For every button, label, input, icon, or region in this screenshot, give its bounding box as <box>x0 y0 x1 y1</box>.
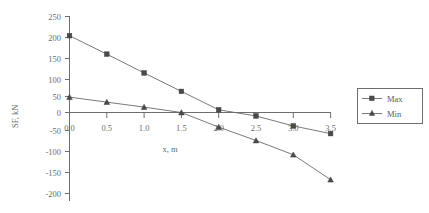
y-tick-label-250: 250 <box>48 12 61 22</box>
series-max-marker-square <box>142 71 147 76</box>
chart-container: 250 200 150 100 50 0 -50 -100 -150 -200 … <box>0 0 429 213</box>
y-tick-label-neg50: -50 <box>50 126 61 136</box>
series-max-marker-square <box>291 124 296 129</box>
y-tick-label-200: 200 <box>48 33 61 43</box>
series-min <box>67 94 334 182</box>
x-axis-ticks <box>70 113 331 119</box>
y-tick-label-neg100: -100 <box>45 147 61 157</box>
x-axis-title: x, m <box>162 144 178 154</box>
x-tick-label-2-5: 2.5 <box>251 123 262 133</box>
series-max-marker-square <box>216 108 221 113</box>
series-max-marker-square <box>254 114 259 119</box>
y-tick-label-100: 100 <box>48 75 61 85</box>
y-tick-label-neg150: -150 <box>45 168 61 178</box>
series-min-marker-triangle <box>253 138 259 143</box>
legend-min-marker-triangle-icon <box>369 110 374 115</box>
y-axis-title: SF, kN <box>10 105 20 128</box>
chart-legend: Max Min <box>358 89 423 124</box>
y-tick-label-0: 0 <box>57 108 61 118</box>
series-max-marker-square <box>179 89 184 94</box>
x-tick-label-1-5: 1.5 <box>176 123 187 133</box>
legend-max-marker-square-icon <box>370 96 375 101</box>
y-tick-label-neg200: -200 <box>45 189 61 199</box>
legend-label-max: Max <box>387 94 403 104</box>
x-tick-label-0-5: 0.5 <box>101 123 112 133</box>
series-max-marker-square <box>67 33 72 38</box>
x-tick-label-0: 0.0 <box>64 123 75 133</box>
series-max <box>67 33 333 136</box>
legend-label-min: Min <box>387 109 402 119</box>
series-max-marker-square <box>105 52 110 57</box>
series-min-marker-triangle <box>328 177 334 182</box>
series-max-marker-square <box>328 131 333 136</box>
shear-force-line-chart: 250 200 150 100 50 0 -50 -100 -150 -200 … <box>0 0 429 213</box>
y-axis-ticks <box>65 17 70 194</box>
series-max-markers <box>67 33 333 136</box>
x-tick-label-1-0: 1.0 <box>139 123 150 133</box>
series-min-line <box>70 97 331 180</box>
series-min-markers <box>67 94 334 182</box>
series-min-marker-triangle <box>291 152 297 157</box>
y-tick-label-50: 50 <box>53 92 62 102</box>
series-max-line <box>70 36 331 134</box>
y-tick-label-150: 150 <box>48 54 61 64</box>
